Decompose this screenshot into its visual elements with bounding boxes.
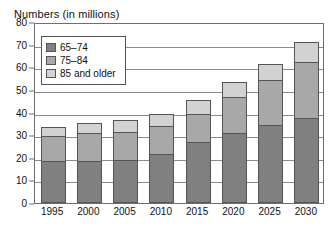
y-axis-label: 20 xyxy=(16,154,27,164)
legend-label: 75–84 xyxy=(60,56,88,66)
legend-swatch-icon xyxy=(46,43,56,52)
x-axis: 19952000200520102015202020252030 xyxy=(34,206,324,226)
bar-segment xyxy=(113,160,138,203)
x-axis-label: 2015 xyxy=(186,206,208,217)
bar-segment xyxy=(258,64,283,80)
y-axis: 01020304050607080 xyxy=(0,23,34,204)
y-axis-label: 0 xyxy=(21,199,27,209)
bar-group xyxy=(222,82,247,203)
bar-segment xyxy=(222,82,247,97)
legend-swatch-icon xyxy=(46,69,56,78)
bar-segment xyxy=(294,42,319,61)
x-axis-label: 2020 xyxy=(222,206,244,217)
y-axis-label: 80 xyxy=(16,18,27,28)
x-axis-label: 2025 xyxy=(259,206,281,217)
y-axis-label: 30 xyxy=(16,131,27,141)
legend-swatch-icon xyxy=(46,56,56,65)
y-axis-label: 70 xyxy=(16,41,27,51)
y-axis-label: 10 xyxy=(16,176,27,186)
bar-segment xyxy=(149,154,174,203)
bar-segment xyxy=(149,126,174,154)
chart-legend: 65–7475–8485 and older xyxy=(41,36,126,85)
bar-segment xyxy=(294,118,319,203)
legend-item: 65–74 xyxy=(46,41,120,54)
bar-group xyxy=(41,127,66,203)
bar-segment xyxy=(186,114,211,142)
y-axis-label: 50 xyxy=(16,86,27,96)
bar-segment xyxy=(41,127,66,136)
stacked-bar-chart: Numbers (in millions) 01020304050607080 … xyxy=(0,0,334,237)
bar-segment xyxy=(113,132,138,160)
bar-group xyxy=(186,100,211,203)
x-axis-label: 2030 xyxy=(295,206,317,217)
bar-group xyxy=(258,64,283,203)
bar-segment xyxy=(77,133,102,161)
legend-label: 85 and older xyxy=(60,69,116,79)
bar-segment xyxy=(77,123,102,133)
bar-group xyxy=(113,120,138,203)
bar-segment xyxy=(222,133,247,203)
x-axis-label: 2000 xyxy=(77,206,99,217)
bar-segment xyxy=(149,114,174,126)
y-axis-label: 40 xyxy=(16,109,27,119)
bar-segment xyxy=(258,80,283,125)
bar-segment xyxy=(186,142,211,203)
bar-segment xyxy=(41,136,66,161)
x-axis-label: 2010 xyxy=(150,206,172,217)
bar-segment xyxy=(77,161,102,203)
bar-segment xyxy=(258,125,283,203)
legend-item: 85 and older xyxy=(46,67,120,80)
legend-label: 65–74 xyxy=(60,43,88,53)
legend-item: 75–84 xyxy=(46,54,120,67)
x-axis-label: 1995 xyxy=(41,206,63,217)
bar-segment xyxy=(113,120,138,131)
y-axis-label: 60 xyxy=(16,63,27,73)
bar-group xyxy=(149,114,174,203)
bar-group xyxy=(294,42,319,203)
chart-title: Numbers (in millions) xyxy=(14,8,119,20)
bar-segment xyxy=(186,100,211,114)
bar-group xyxy=(77,123,102,203)
bar-segment xyxy=(222,97,247,133)
bar-segment xyxy=(294,62,319,119)
bar-segment xyxy=(41,161,66,203)
x-axis-label: 2005 xyxy=(114,206,136,217)
